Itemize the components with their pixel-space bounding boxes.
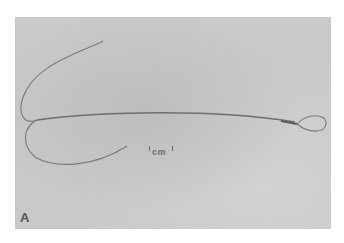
scale-bar-label: cm bbox=[152, 147, 166, 157]
specimen-photo bbox=[15, 17, 331, 229]
scale-tick-left bbox=[149, 146, 150, 151]
scale-tick-right bbox=[172, 146, 173, 151]
panel-label: A bbox=[20, 210, 29, 225]
wire-drawing bbox=[15, 17, 331, 229]
